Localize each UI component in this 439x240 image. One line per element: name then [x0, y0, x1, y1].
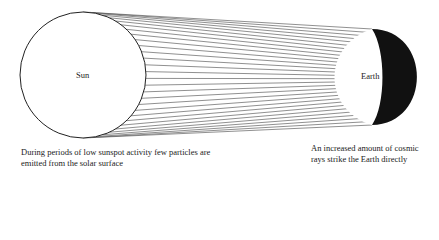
earth-label: Earth: [361, 71, 379, 82]
caption-low-sunspot: During periods of low sunspot activity f…: [21, 147, 221, 169]
sun-label: Sun: [76, 70, 89, 81]
caption-cosmic-rays: An increased amount of cosmic rays strik…: [311, 143, 431, 165]
